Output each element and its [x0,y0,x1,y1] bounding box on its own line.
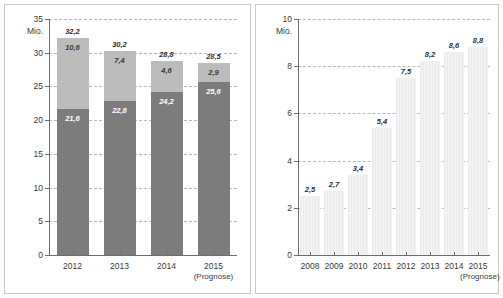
bar [396,78,416,255]
right-plot-area: 0246810Mio.2,520082,720093,420105,420117… [256,5,498,293]
x-tick-label: 2015 [466,261,490,271]
bar [324,191,344,255]
y-tick-label: 4 [264,156,292,166]
bar [420,61,440,255]
x-tick-label: 2009 [322,261,346,271]
bar-value-label: 8,8 [458,36,498,45]
bar [468,47,488,255]
y-tick-label: 25 [15,81,43,91]
x-tick-mark [310,252,311,256]
x-tick-label: 2013 [418,261,442,271]
bar-bottom-segment-label: 25,6 [188,87,240,96]
bar-bottom-segment-label: 22,8 [94,106,146,115]
y-tick-label: 0 [264,250,292,260]
y-tick-label: 2 [264,203,292,213]
x-tick-mark [382,252,383,256]
bar-segment-bottom [104,101,136,255]
x-tick-mark [430,252,431,256]
bar-top-segment-label: 2,9 [188,68,240,77]
x-tick-mark [120,252,121,256]
y-tick-label: 30 [15,48,43,58]
x-tick-mark [478,252,479,256]
x-tick-mark [406,252,407,256]
x-axis-line [49,255,237,256]
bar-total-label: 32,2 [47,27,99,36]
y-tick-label: 6 [264,108,292,118]
bar [300,196,320,255]
bar-total-label: 28,8 [141,50,193,59]
x-tick-mark [334,252,335,256]
chart-page: 05101520253035Mio.32,210,621,6201230,27,… [0,0,503,298]
bar-total-label: 30,2 [94,40,146,49]
y-tick-label: 10 [264,14,292,24]
bar-top-segment-label: 4,6 [141,66,193,75]
y-tick-label: 8 [264,61,292,71]
x-tick-label: 2014 [143,261,190,271]
y-tick-label: 0 [15,250,43,260]
left-plot-area: 05101520253035Mio.32,210,621,6201230,27,… [5,5,250,293]
y-tick-label: 20 [15,115,43,125]
x-tick-mark [358,252,359,256]
x-tick-sublabel: (Prognose) [184,272,243,281]
bar [104,51,136,255]
x-axis-line [298,255,490,256]
x-tick-label: 2015 [190,261,237,271]
y-tick-label: 10 [15,183,43,193]
bar-segment-bottom [198,82,230,255]
bar-top-segment-label: 7,4 [94,56,146,65]
bar [348,175,368,255]
x-tick-label: 2014 [442,261,466,271]
x-tick-mark [73,252,74,256]
bar-bottom-segment-label: 24,2 [141,97,193,106]
bar [372,128,392,255]
bar-segment-bottom [151,92,183,255]
y-tick-label: 35 [15,14,43,24]
bar-total-label: 28,5 [188,52,240,61]
gridline [49,19,237,20]
bar [57,38,89,255]
y-tick-label: 15 [15,149,43,159]
x-tick-mark [167,252,168,256]
y-tick-label: 5 [15,216,43,226]
x-tick-mark [454,252,455,256]
x-tick-label: 2013 [96,261,143,271]
bar-top-segment-label: 10,6 [47,43,99,52]
left-chart-panel: 05101520253035Mio.32,210,621,6201230,27,… [4,4,251,294]
y-axis-line [49,19,50,256]
x-tick-label: 2011 [370,261,394,271]
y-axis-unit-label: Mio. [264,26,292,36]
y-axis-unit-label: Mio. [15,26,43,36]
x-tick-label: 2010 [346,261,370,271]
x-tick-label: 2008 [298,261,322,271]
bar [444,52,464,255]
bar [151,61,183,255]
x-tick-label: 2012 [394,261,418,271]
bar-bottom-segment-label: 21,6 [47,114,99,123]
bar-segment-bottom [57,109,89,255]
gridline [298,19,490,20]
right-chart-panel: 0246810Mio.2,520082,720093,420105,420117… [255,4,499,294]
x-tick-sublabel: (Prognose) [460,272,496,281]
x-tick-mark [214,252,215,256]
x-tick-label: 2012 [49,261,96,271]
y-axis-line [298,19,299,256]
